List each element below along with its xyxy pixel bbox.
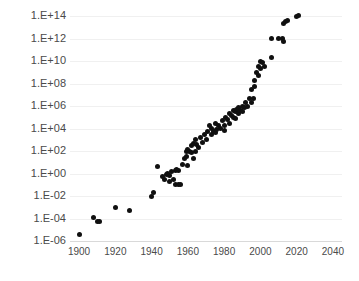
data-point bbox=[249, 100, 254, 105]
gridline bbox=[70, 84, 342, 85]
data-point bbox=[113, 205, 118, 210]
x-axis-line bbox=[70, 241, 342, 242]
data-point bbox=[171, 177, 176, 182]
data-point bbox=[285, 18, 290, 23]
data-point bbox=[222, 128, 227, 133]
data-point bbox=[176, 168, 181, 173]
y-tick-label: 1.E-02 bbox=[0, 190, 66, 201]
data-point bbox=[227, 121, 232, 126]
data-point bbox=[184, 154, 189, 159]
data-point bbox=[269, 55, 274, 60]
data-point bbox=[204, 137, 209, 142]
data-point bbox=[185, 163, 190, 168]
data-point bbox=[222, 123, 227, 128]
data-point bbox=[162, 177, 167, 182]
y-tick-label: 1.E+04 bbox=[0, 123, 66, 134]
x-tick-label: 1960 bbox=[168, 246, 208, 258]
data-point bbox=[97, 219, 102, 224]
x-axis: 19001920194019601980200020202040 bbox=[0, 246, 359, 264]
y-tick-label: 1.E+02 bbox=[0, 145, 66, 156]
data-point bbox=[233, 116, 238, 121]
gridline bbox=[70, 16, 342, 17]
x-tick-label: 2020 bbox=[277, 246, 317, 258]
data-point bbox=[77, 232, 82, 237]
gridline bbox=[70, 106, 342, 107]
data-point bbox=[296, 13, 301, 18]
data-point bbox=[196, 145, 201, 150]
plot-area bbox=[70, 16, 342, 241]
y-tick-label: 1.E+00 bbox=[0, 168, 66, 179]
y-tick-label: 1.E+12 bbox=[0, 33, 66, 44]
gridline bbox=[70, 39, 342, 40]
data-point bbox=[191, 156, 196, 161]
data-point bbox=[127, 208, 132, 213]
y-tick-label: 1.E+08 bbox=[0, 78, 66, 89]
data-point bbox=[256, 73, 261, 78]
y-axis: 1.E-061.E-041.E-021.E+001.E+021.E+041.E+… bbox=[0, 0, 66, 281]
x-tick-label: 2040 bbox=[313, 246, 353, 258]
x-tick-label: 1900 bbox=[59, 246, 99, 258]
y-tick-label: 1.E-04 bbox=[0, 213, 66, 224]
y-tick-label: 1.E+06 bbox=[0, 100, 66, 111]
scatter-chart: 1.E-061.E-041.E-021.E+001.E+021.E+041.E+… bbox=[0, 0, 359, 281]
gridline bbox=[70, 61, 342, 62]
data-point bbox=[251, 96, 256, 101]
gridline bbox=[70, 219, 342, 220]
y-tick-label: 1.E+14 bbox=[0, 10, 66, 21]
x-tick-label: 2000 bbox=[240, 246, 280, 258]
x-tick-label: 1920 bbox=[95, 246, 135, 258]
gridline bbox=[70, 196, 342, 197]
data-point bbox=[180, 162, 185, 167]
y-tick-label: 1.E-06 bbox=[0, 235, 66, 246]
x-tick-label: 1940 bbox=[132, 246, 172, 258]
data-point bbox=[252, 78, 257, 83]
data-point bbox=[262, 64, 267, 69]
data-point bbox=[155, 164, 160, 169]
data-point bbox=[269, 36, 274, 41]
data-point bbox=[240, 109, 245, 114]
x-tick-label: 1980 bbox=[204, 246, 244, 258]
gridline bbox=[70, 174, 342, 175]
y-tick-label: 1.E+10 bbox=[0, 55, 66, 66]
data-point bbox=[178, 182, 183, 187]
gridline bbox=[70, 151, 342, 152]
data-point bbox=[151, 190, 156, 195]
